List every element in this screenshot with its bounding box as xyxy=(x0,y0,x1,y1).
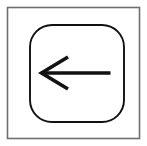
icon-canvas: Back arrow button A left-pointing arrow … xyxy=(0,0,147,146)
back-arrow-icon-graphic xyxy=(0,0,147,146)
